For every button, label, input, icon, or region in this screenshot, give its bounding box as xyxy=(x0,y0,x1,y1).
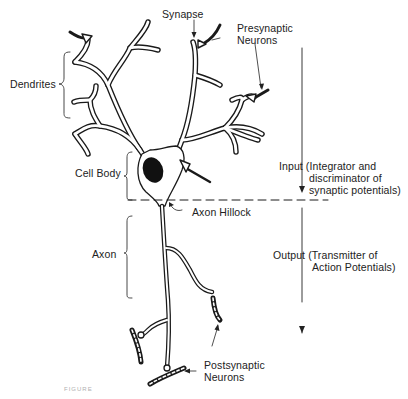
label-presynaptic-2: Neurons xyxy=(237,34,277,46)
label-input-3: synaptic potentials) xyxy=(309,184,401,196)
label-dendrites: Dendrites xyxy=(10,78,56,90)
label-axon-hillock: Axon Hillock xyxy=(192,206,251,218)
label-axon: Axon xyxy=(92,248,116,260)
leader-lines xyxy=(170,20,261,371)
label-synapse: Synapse xyxy=(162,8,204,20)
label-output-1: Output (Transmitter of xyxy=(273,249,378,261)
figure-caption: FIGURE xyxy=(64,386,93,392)
label-presynaptic-1: Presynaptic xyxy=(237,22,293,34)
presynaptic-neuron-top xyxy=(203,25,220,44)
presynaptic-neuron-right xyxy=(256,90,268,97)
label-cell-body: Cell Body xyxy=(75,167,121,179)
label-output-2: Action Potentials) xyxy=(312,261,396,273)
label-input-2: discriminator of xyxy=(309,172,382,184)
label-input-1: Input (Integrator and xyxy=(279,160,376,172)
label-postsynaptic-2: Neurons xyxy=(204,371,244,383)
label-postsynaptic-1: Postsynaptic xyxy=(204,359,265,371)
neuron-illustration xyxy=(0,0,408,399)
neuron-diagram: Synapse Presynaptic Neurons Dendrites Ce… xyxy=(0,0,408,399)
